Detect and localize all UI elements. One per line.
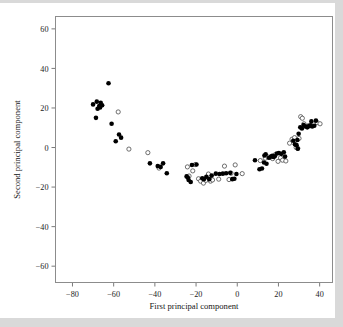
x-tick-label: −40: [148, 290, 161, 299]
data-point-open: [146, 151, 150, 155]
data-point-filled: [312, 123, 317, 128]
data-point-open: [127, 147, 131, 151]
data-point-filled: [283, 154, 288, 159]
data-point-filled: [295, 138, 300, 143]
y-tick-label: 40: [40, 65, 48, 74]
x-tick-label: −80: [66, 290, 79, 299]
figure-container: −80−60−40−2002040−60−40−200204060First p…: [0, 0, 343, 327]
x-tick-label: 0: [235, 290, 239, 299]
data-point-filled: [253, 158, 258, 163]
data-point-open: [116, 110, 120, 114]
y-tick-label: 60: [40, 25, 48, 34]
data-point-filled: [224, 171, 229, 176]
x-axis-title: First principal component: [150, 301, 239, 311]
data-point-open: [284, 159, 288, 163]
data-point-open: [233, 163, 237, 167]
y-axis-title: Second principal component: [12, 100, 22, 199]
data-point-filled: [209, 173, 214, 178]
y-tick-label: 0: [44, 144, 48, 153]
data-point-filled: [234, 172, 239, 177]
x-tick-label: 40: [316, 290, 324, 299]
y-tick-label: 20: [40, 104, 48, 113]
data-point-filled: [282, 150, 287, 155]
bottom-edge-strip: [0, 318, 343, 327]
data-point-filled: [106, 81, 111, 86]
scatter-plot: −80−60−40−2002040−60−40−200204060First p…: [0, 0, 343, 327]
data-point-filled: [188, 180, 193, 185]
data-point-filled: [91, 102, 96, 107]
data-point-open: [222, 164, 226, 168]
data-point-open: [185, 165, 189, 169]
data-point-filled: [94, 99, 99, 104]
data-point-filled: [165, 171, 170, 176]
top-edge-strip: [0, 0, 343, 3]
data-point-filled: [148, 161, 153, 166]
data-point-filled: [260, 166, 265, 171]
data-point-open: [318, 122, 322, 126]
data-point-filled: [314, 118, 319, 123]
data-point-filled: [264, 161, 269, 166]
data-point-open: [300, 116, 304, 120]
data-point-filled: [296, 146, 301, 151]
x-tick-label: −20: [190, 290, 203, 299]
y-tick-label: −20: [36, 183, 49, 192]
x-tick-label: 20: [274, 290, 282, 299]
y-tick-label: −60: [36, 262, 49, 271]
data-point-filled: [119, 135, 124, 140]
data-point-filled: [228, 171, 233, 176]
data-point-filled: [296, 131, 301, 136]
data-point-open: [191, 169, 195, 173]
data-point-filled: [94, 116, 99, 121]
data-point-filled: [113, 139, 118, 144]
data-point-filled: [194, 162, 199, 167]
data-point-filled: [109, 121, 114, 126]
x-tick-label: −60: [107, 290, 120, 299]
data-point-filled: [309, 119, 314, 124]
right-edge-strip: [335, 0, 343, 327]
y-tick-label: −40: [36, 223, 49, 232]
data-point-open: [287, 141, 291, 145]
figure-background: [0, 0, 343, 327]
data-point-open: [240, 172, 244, 176]
data-point-filled: [263, 152, 268, 157]
data-point-open: [217, 177, 221, 181]
data-point-filled: [190, 163, 195, 168]
data-point-filled: [161, 161, 166, 166]
data-point-filled: [232, 176, 237, 181]
data-point-filled: [95, 106, 100, 111]
